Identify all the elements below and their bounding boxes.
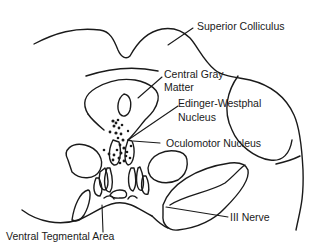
label-edinger-westphal-line1: Edinger-Westphal	[178, 97, 261, 109]
ventral-outline	[22, 203, 152, 223]
dorsal-outline	[34, 28, 303, 230]
label-edinger-westphal-line2: Nucleus	[178, 111, 216, 123]
cerebral-aqueduct	[118, 94, 131, 116]
left-oval	[66, 144, 101, 177]
central-gray-top-arc	[86, 68, 158, 76]
central-gray-outline	[85, 79, 159, 140]
label-central-gray-line2: Matter	[164, 81, 194, 93]
label-central-gray-line1: Central Gray	[164, 68, 224, 80]
midbrain-outline-drawing	[0, 0, 321, 246]
oculomotor-pointer	[133, 141, 160, 143]
label-oculomotor-nucleus: Oculomotor Nucleus	[166, 137, 261, 149]
vta-pointer	[102, 205, 103, 232]
label-superior-colliculus: Superior Colliculus	[197, 20, 285, 32]
iii-nerve-pointer	[166, 207, 228, 217]
right-oval	[148, 151, 187, 183]
label-iii-nerve: III Nerve	[230, 211, 270, 223]
label-ventral-tegmental-area: Ventral Tegmental Area	[6, 230, 114, 242]
midbrain-diagram: Superior Colliculus Central Gray Matter …	[0, 0, 321, 246]
